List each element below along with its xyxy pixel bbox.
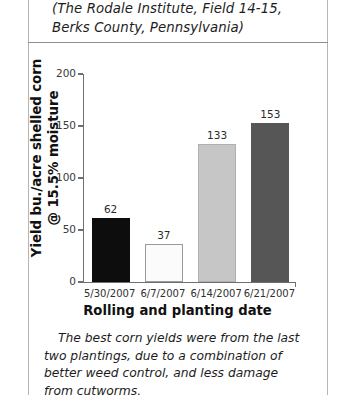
x-axis-tick-label: 6/14/2007 — [190, 288, 243, 299]
y-axis-tick-label: 0 — [36, 275, 76, 287]
chart-page: (The Rodale Institute, Field 14-15, Berk… — [0, 0, 337, 395]
x-axis-line — [83, 282, 296, 283]
chart-subtitle: (The Rodale Institute, Field 14-15, Berk… — [52, 0, 320, 37]
x-axis-tick-label: 6/7/2007 — [136, 288, 189, 299]
plot-area: 6237133153 — [83, 74, 296, 282]
bar-chart: Yield bu./acre shelled corn @ 15.5% mois… — [0, 42, 337, 300]
bar — [251, 123, 289, 282]
bar — [92, 218, 130, 282]
x-axis-tick-label: 5/30/2007 — [83, 288, 136, 299]
bar-value-label: 37 — [157, 229, 170, 241]
x-axis-end-tick — [295, 282, 296, 287]
y-axis-tick-label: 150 — [36, 119, 76, 131]
bar — [198, 144, 236, 282]
x-axis-title: Rolling and planting date — [28, 303, 327, 318]
chart-caption: The best corn yields were from the last … — [44, 330, 306, 395]
y-axis-tick-label: 100 — [36, 171, 76, 183]
x-axis-tick-label: 6/21/2007 — [243, 288, 296, 299]
chart-subtitle-line-2: Berks County, Pennsylvania) — [52, 18, 320, 37]
bar-value-label: 133 — [207, 129, 227, 141]
bar-value-label: 62 — [104, 203, 117, 215]
y-axis-tick-label: 50 — [36, 223, 76, 235]
bar — [145, 244, 183, 282]
chart-subtitle-line-1: (The Rodale Institute, Field 14-15, — [52, 0, 320, 18]
bar-value-label: 153 — [260, 108, 280, 120]
y-axis-tick-label: 200 — [36, 67, 76, 79]
